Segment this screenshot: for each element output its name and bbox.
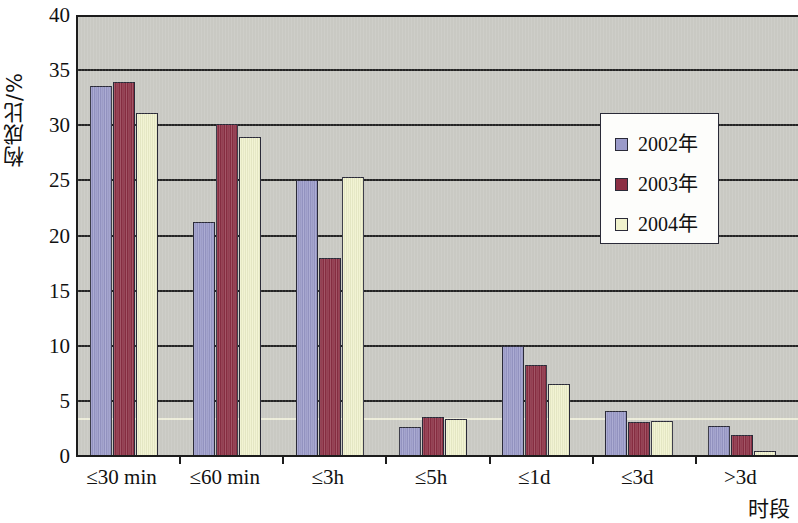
bar (628, 422, 650, 456)
legend-swatch-icon (615, 178, 628, 191)
bar (193, 222, 215, 456)
y-tick-label: 5 (28, 390, 70, 411)
gridline-40 (78, 15, 798, 16)
x-tick-mark (282, 457, 284, 464)
legend-label: 2004年 (638, 214, 698, 234)
bar-group (296, 17, 364, 456)
x-tick-mark (385, 457, 387, 464)
bar (502, 346, 524, 456)
x-tick-mark (592, 457, 594, 464)
bar (342, 177, 364, 456)
y-axis-title-text: 构成比/% (0, 72, 30, 167)
legend-item: 2002年 (615, 126, 718, 162)
bar (319, 258, 341, 456)
y-axis-title: 构成比/% (2, 30, 28, 210)
y-tick-label: 25 (28, 170, 70, 191)
bar (216, 124, 238, 456)
x-tick-label: ≤5h (415, 467, 448, 488)
bar (239, 137, 261, 456)
x-tick-label: ≤1d (518, 467, 551, 488)
y-tick-label: 40 (28, 5, 70, 26)
y-tick-label: 35 (28, 60, 70, 81)
bar (651, 421, 673, 456)
x-tick-mark (179, 457, 181, 464)
bar (136, 113, 158, 456)
x-tick-mark (489, 457, 491, 464)
bar-group (502, 17, 570, 456)
bar (296, 180, 318, 456)
x-tick-label: ≤30 min (86, 467, 156, 488)
legend-swatch-icon (615, 218, 628, 231)
bar (399, 427, 421, 456)
bar-chart: 构成比/% 0510152025303540 ≤30 min≤60 min≤3h… (0, 0, 798, 523)
bar (113, 82, 135, 456)
y-axis-tick-labels: 0510152025303540 (28, 0, 70, 523)
x-tick-label: ≤3d (621, 467, 654, 488)
x-axis-title: 时段 (748, 492, 790, 522)
legend-item: 2003年 (615, 166, 718, 202)
x-axis-line (76, 455, 798, 457)
legend-swatch-icon (615, 138, 628, 151)
y-tick-label: 20 (28, 225, 70, 246)
y-tick-label: 0 (28, 446, 70, 467)
y-tick-label: 15 (28, 280, 70, 301)
legend-label: 2002年 (638, 134, 698, 154)
bar (525, 365, 547, 457)
bar (708, 426, 730, 456)
y-tick-label: 10 (28, 335, 70, 356)
legend-label: 2003年 (638, 174, 698, 194)
bar (731, 435, 753, 456)
bar (605, 411, 627, 456)
bar (445, 419, 467, 456)
y-tick-label: 30 (28, 115, 70, 136)
bar-group (90, 17, 158, 456)
x-tick-label: ≤3h (312, 467, 345, 488)
x-tick-mark (695, 457, 697, 464)
bar-group (399, 17, 467, 456)
bar-group (193, 17, 261, 456)
x-tick-label: >3d (724, 467, 757, 488)
bar (548, 384, 570, 456)
legend-item: 2004年 (615, 206, 718, 242)
chart-legend: 2002年2003年2004年 (600, 113, 719, 244)
bar (90, 86, 112, 456)
bar (422, 417, 444, 456)
x-tick-label: ≤60 min (189, 467, 259, 488)
x-axis-tick-labels: ≤30 min≤60 min≤3h≤5h≤1d≤3d>3d (76, 462, 798, 496)
